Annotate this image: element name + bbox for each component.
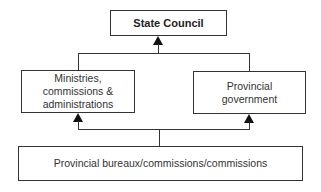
connector-line <box>78 129 250 130</box>
connector-line <box>159 129 160 146</box>
node-provincial-government: Provincial government <box>193 71 306 114</box>
node-ministries: Ministries, commissions & administration… <box>21 70 135 113</box>
node-label: Provincial government <box>222 80 277 106</box>
node-label: Provincial bureaux/commissions/commissio… <box>54 157 268 170</box>
connector-line <box>78 121 79 129</box>
connector-line <box>78 53 79 70</box>
node-label: State Council <box>133 17 203 30</box>
node-state-council: State Council <box>110 10 227 36</box>
node-label: Ministries, commissions & administration… <box>43 72 114 111</box>
connector-line <box>78 53 250 54</box>
connector-line <box>158 44 159 53</box>
connector-line <box>249 122 250 129</box>
node-provincial-bureaux: Provincial bureaux/commissions/commissio… <box>18 146 303 181</box>
connector-line <box>249 53 250 71</box>
